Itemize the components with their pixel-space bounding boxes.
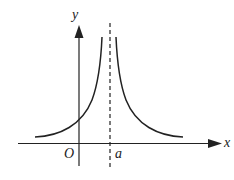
right-curve-branch <box>116 37 183 137</box>
graph-canvas: y x O a <box>0 0 234 180</box>
x-axis-arrow-icon <box>208 139 222 148</box>
asymptote-label: a <box>115 146 122 161</box>
y-axis-arrow-icon <box>75 25 84 38</box>
origin-label: O <box>64 146 74 161</box>
function-graph-diagram: y x O a <box>0 0 234 180</box>
x-axis-label: x <box>223 135 231 150</box>
left-curve-branch <box>35 37 102 137</box>
y-axis-label: y <box>70 7 79 22</box>
